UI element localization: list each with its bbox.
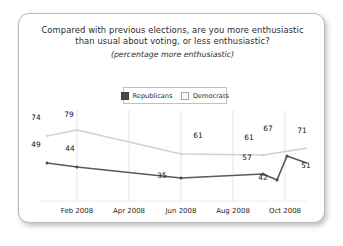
x-axis-tick-4: Oct 2008 (269, 207, 301, 215)
chart-title-block: Compared with previous elections, are yo… (29, 25, 316, 60)
series-line-democrats (47, 130, 307, 155)
x-axis-tick-0: Feb 2008 (61, 207, 93, 215)
legend-label-republicans: Republicans (133, 92, 173, 100)
chart-title-line-2: than usual about voting, or less enthusi… (29, 36, 316, 47)
chart-plot-area (39, 110, 307, 202)
chart-title-line-1: Compared with previous elections, are yo… (29, 25, 316, 36)
legend-item-republicans[interactable]: Republicans (121, 92, 172, 100)
legend-item-democrats[interactable]: Democrats (181, 92, 229, 100)
chart-card: Compared with previous elections, are yo… (18, 13, 325, 223)
series-line-republicans (47, 156, 307, 180)
chart-subtitle: (percentage more enthusiastic) (29, 49, 316, 61)
legend-label-democrats: Democrats (193, 92, 229, 100)
chart-x-axis: Feb 2008 Apr 2008 Jun 2008 Aug 2008 Oct … (39, 207, 315, 221)
x-axis-tick-2: Jun 2008 (166, 207, 197, 215)
x-axis-tick-3: Aug 2008 (216, 207, 250, 215)
chart-svg (39, 110, 307, 202)
x-axis-tick-1: Apr 2008 (113, 207, 145, 215)
legend-swatch-republicans-icon (121, 92, 129, 100)
chart-legend: Republicans Democrats (123, 87, 227, 104)
chart-gridlines (77, 110, 285, 202)
chart-screenshot-root: Compared with previous elections, are yo… (0, 0, 343, 246)
legend-swatch-democrats-icon (181, 92, 189, 100)
